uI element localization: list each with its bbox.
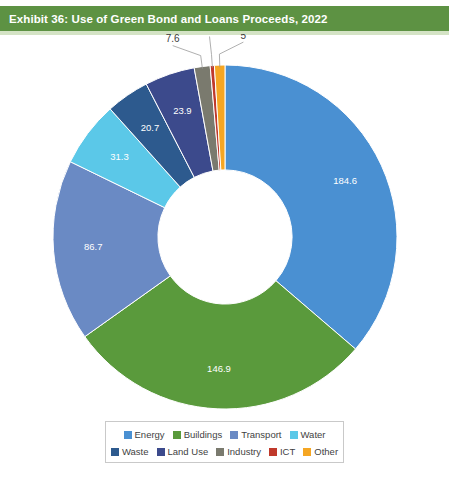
legend-swatch-icon [303, 448, 311, 456]
legend-label: Land Use [168, 447, 209, 457]
legend-label: Water [301, 430, 326, 440]
legend-swatch-icon [173, 431, 181, 439]
exhibit-title-banner: Exhibit 36: Use of Green Bond and Loans … [0, 6, 449, 32]
legend-swatch-icon [157, 448, 165, 456]
legend-swatch-icon [111, 448, 119, 456]
legend-row-primary: EnergyBuildingsTransportWater [112, 426, 337, 443]
chart-legend: EnergyBuildingsTransportWater WasteLand … [105, 421, 344, 463]
data-label-industry: 7.6 [166, 34, 180, 44]
legend-item-transport[interactable]: Transport [230, 430, 281, 440]
data-label-other: 5 [241, 34, 247, 41]
data-label-energy: 184.6 [333, 175, 357, 186]
data-label-waste: 20.7 [141, 122, 160, 133]
legend-swatch-icon [269, 448, 277, 456]
legend-row-secondary: WasteLand UseIndustryICTOther [112, 443, 337, 460]
leader-line-industry [173, 46, 203, 69]
donut-chart: 184.6146.986.731.320.723.97.625 [0, 34, 449, 424]
data-label-transport: 86.7 [84, 241, 103, 252]
leader-line-other [219, 42, 243, 67]
legend-item-water[interactable]: Water [290, 430, 326, 440]
donut-chart-svg: 184.6146.986.731.320.723.97.625 [0, 34, 449, 424]
data-label-ict: 2 [207, 34, 213, 35]
chart-page: Exhibit 36: Use of Green Bond and Loans … [0, 0, 449, 477]
legend-label: ICT [280, 447, 295, 457]
legend-label: Other [314, 447, 338, 457]
leader-line-ict [210, 37, 213, 68]
legend-item-other[interactable]: Other [303, 447, 338, 457]
page-title: Exhibit 36: Use of Green Bond and Loans … [9, 6, 328, 32]
data-label-land-use: 23.9 [173, 105, 192, 116]
legend-item-industry[interactable]: Industry [216, 447, 261, 457]
legend-item-energy[interactable]: Energy [124, 430, 165, 440]
legend-label: Transport [241, 430, 281, 440]
legend-label: Energy [135, 430, 165, 440]
legend-swatch-icon [290, 431, 298, 439]
legend-swatch-icon [124, 431, 132, 439]
legend-label: Industry [227, 447, 261, 457]
legend-swatch-icon [230, 431, 238, 439]
donut-leader-lines [173, 37, 244, 69]
legend-item-waste[interactable]: Waste [111, 447, 149, 457]
legend-item-buildings[interactable]: Buildings [173, 430, 223, 440]
legend-item-ict[interactable]: ICT [269, 447, 295, 457]
legend-item-land-use[interactable]: Land Use [157, 447, 209, 457]
data-label-water: 31.3 [110, 151, 129, 162]
donut-slices [53, 65, 397, 409]
data-label-buildings: 146.9 [207, 363, 231, 374]
legend-label: Waste [122, 447, 149, 457]
legend-label: Buildings [184, 430, 223, 440]
legend-swatch-icon [216, 448, 224, 456]
